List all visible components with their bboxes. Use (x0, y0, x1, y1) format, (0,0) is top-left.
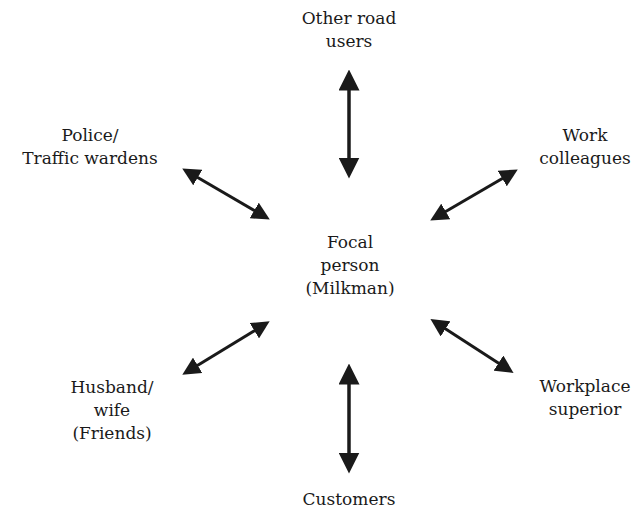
node-line: Customers (270, 488, 428, 511)
node-line: Workplace (524, 375, 643, 398)
node-line: Traffic wardens (2, 147, 178, 170)
node-line: wife (52, 399, 172, 422)
arrow-work-colleagues (438, 174, 510, 216)
arrow-police (190, 173, 262, 215)
node-line: Police/ (2, 124, 178, 147)
node-line: Work (524, 124, 643, 147)
center-line: (Milkman) (280, 277, 420, 300)
node-other-road-users: Other road users (270, 7, 428, 53)
center-line: Focal (280, 231, 420, 254)
node-line: Husband/ (52, 376, 172, 399)
node-line: superior (524, 398, 643, 421)
node-line: Other road (270, 7, 428, 30)
node-line: (Friends) (52, 422, 172, 445)
node-line: users (270, 30, 428, 53)
arrow-husband-wife (190, 326, 262, 370)
center-line: person (280, 254, 420, 277)
node-police: Police/ Traffic wardens (2, 124, 178, 170)
node-work-colleagues: Work colleagues (524, 124, 643, 170)
node-husband-wife: Husband/ wife (Friends) (52, 376, 172, 445)
node-line: colleagues (524, 147, 643, 170)
arrow-workplace-superior (438, 324, 506, 368)
node-workplace-superior: Workplace superior (524, 375, 643, 421)
node-customers: Customers (270, 488, 428, 511)
node-focal-person: Focal person (Milkman) (280, 231, 420, 300)
